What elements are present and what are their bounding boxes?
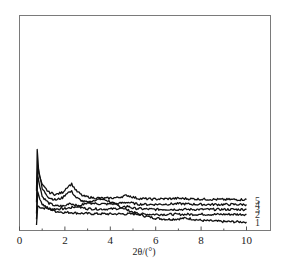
curve-labels: 12345 [255,195,260,228]
curves [37,150,247,226]
x-tick-label: 6 [153,234,159,246]
x-tick-label: 0 [17,234,23,246]
x-tick-label: 2 [62,234,68,246]
x-tick-label: 10 [241,234,253,246]
x-axis-ticks: 0246810 [17,227,253,246]
x-axis-label: 2θ/(°) [132,246,155,258]
x-tick-label: 8 [198,234,204,246]
xrd-chart: 0246810 12345 2θ/(°) [0,0,281,271]
x-tick-label: 4 [108,234,114,246]
curve-label-5: 5 [255,195,260,206]
